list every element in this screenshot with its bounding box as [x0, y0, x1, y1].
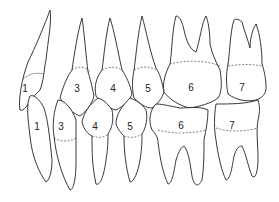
lower-tooth-1 [28, 96, 52, 182]
lower-tooth-3 [53, 100, 76, 190]
upper-tooth-1 [19, 10, 50, 110]
lower-tooth-4 [82, 98, 113, 184]
upper-tooth-4 [95, 18, 132, 110]
upper-label-1: 1 [22, 83, 28, 94]
upper-label-7: 7 [239, 82, 245, 93]
lower-label-7: 7 [229, 120, 235, 131]
upper-label-4: 4 [110, 83, 116, 94]
upper-tooth-6 [163, 16, 221, 108]
upper-label-5: 5 [145, 83, 151, 94]
lower-label-5: 5 [127, 121, 133, 132]
upper-tooth-3 [60, 18, 94, 116]
upper-label-6: 6 [188, 82, 194, 93]
teeth-diagram: 1 3 4 5 6 7 1 3 4 5 6 7 [0, 0, 279, 202]
upper-tooth-7 [227, 19, 267, 101]
lower-label-6: 6 [178, 120, 184, 131]
lower-tooth-6 [150, 104, 208, 185]
lower-label-4: 4 [92, 121, 98, 132]
lower-label-1: 1 [34, 121, 40, 132]
teeth-drawing [0, 0, 279, 202]
lower-tooth-5 [116, 98, 147, 182]
upper-tooth-5 [133, 16, 165, 108]
lower-tooth-7 [215, 100, 260, 180]
upper-label-3: 3 [74, 83, 80, 94]
lower-label-3: 3 [58, 121, 64, 132]
